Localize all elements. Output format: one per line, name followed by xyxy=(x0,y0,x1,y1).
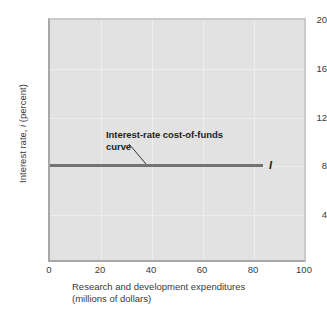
x-axis-label: Research and development expenditures (m… xyxy=(72,281,245,305)
x-axis-tick-0: 0 xyxy=(29,265,69,275)
x-axis-tick-20: 20 xyxy=(80,265,120,275)
gridline-vertical-80 xyxy=(254,20,255,260)
curve-annotation-line-2: curve xyxy=(106,141,131,152)
y-axis-label-variable: i xyxy=(17,125,28,127)
curve-annotation-line-1: Interest-rate cost-of-funds xyxy=(106,129,223,140)
gridline-horizontal-16 xyxy=(50,69,304,70)
plot-area: Interest-rate cost-of-funds curve I xyxy=(48,18,306,262)
x-axis-tick-80: 80 xyxy=(233,265,273,275)
y-axis-label-prefix: Interest rate, xyxy=(17,127,28,183)
x-axis-tick-60: 60 xyxy=(182,265,222,275)
gridline-vertical-20 xyxy=(101,20,102,260)
gridline-horizontal-4 xyxy=(50,215,304,216)
x-axis-tick-100: 100 xyxy=(284,265,324,275)
x-axis-label-line-2: (millions of dollars) xyxy=(72,293,245,305)
gridline-horizontal-12 xyxy=(50,118,304,119)
x-axis-tick-40: 40 xyxy=(131,265,171,275)
chart-figure: 20 16 12 8 4 Interest rate, i (percent) … xyxy=(0,0,327,317)
curve-symbol-label: I xyxy=(269,160,272,171)
x-axis-label-line-1: Research and development expenditures xyxy=(72,281,245,293)
curve-annotation-text: Interest-rate cost-of-funds curve xyxy=(106,129,223,153)
y-axis-label-suffix: (percent) xyxy=(17,84,28,125)
y-axis-label: Interest rate, i (percent) xyxy=(17,54,28,214)
cost-of-funds-curve-line xyxy=(50,164,263,167)
